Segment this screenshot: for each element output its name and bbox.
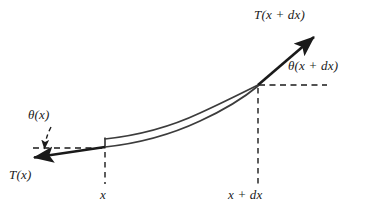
string-band-upper-edge <box>105 85 258 139</box>
angle-left-label: θ(x) <box>28 108 50 121</box>
string-element <box>105 85 258 148</box>
angle-right-label: θ(x + dx) <box>288 59 338 72</box>
angle-left-pointer-dashed-arrow <box>45 127 52 149</box>
x-tick-label: x <box>100 188 106 201</box>
diagram-canvas <box>0 0 368 210</box>
x-plus-dx-tick-label: x + dx <box>228 188 263 201</box>
tension-right-label: T(x + dx) <box>254 8 305 21</box>
tension-left-label: T(x) <box>9 168 31 181</box>
string-band-lower-edge <box>105 86 258 147</box>
tension-string-diagram: T(x + dx) θ(x + dx) θ(x) T(x) x x + dx <box>0 0 368 210</box>
